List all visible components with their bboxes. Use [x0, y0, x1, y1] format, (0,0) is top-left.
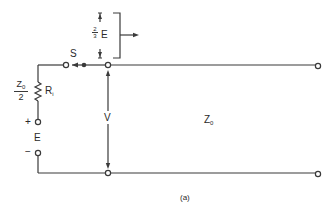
source-minus-terminal: [35, 150, 40, 155]
switch-pivot-dot: [82, 63, 87, 68]
switch-open-terminal: [63, 62, 68, 67]
line-impedance-label: Z0: [204, 115, 213, 126]
plus-sign: +: [25, 117, 31, 127]
minus-sign: −: [25, 147, 31, 157]
transmission-line-diagram: S Z0 2 Ri + E − V Z0 2 3 E (a): [0, 0, 334, 210]
pulse-amplitude-symbol: E: [101, 30, 108, 40]
line-end-bottom-terminal: [315, 171, 320, 176]
switch-arrow-icon: [72, 63, 78, 68]
pulse-amplitude-fraction: 2 3: [92, 26, 98, 39]
circuit-schematic: [0, 0, 334, 210]
resistor-icon: [35, 82, 41, 101]
junction-top-terminal: [105, 62, 110, 67]
junction-bottom-terminal: [105, 170, 110, 175]
source-label: E: [34, 133, 41, 143]
source-impedance-fraction: Z0 2: [14, 80, 28, 102]
source-impedance-denominator: 2: [18, 92, 23, 102]
switch-label: S: [70, 49, 77, 59]
pulse-fraction-numerator: 2: [93, 26, 96, 32]
source-impedance-numerator: Z0: [17, 79, 26, 89]
line-end-top-terminal: [315, 63, 320, 68]
source-plus-terminal: [35, 119, 40, 124]
pulse-height-arrowhead-up: [98, 14, 102, 19]
voltage-arrowhead-down: [106, 163, 110, 169]
voltage-label: V: [104, 113, 111, 123]
pulse-bracket: [113, 13, 120, 58]
figure-caption: (a): [180, 194, 190, 202]
pulse-direction-arrowhead: [133, 33, 139, 37]
pulse-fraction-denominator: 3: [93, 33, 96, 39]
pulse-height-arrowhead-down: [98, 52, 102, 57]
resistor-label: Ri: [45, 86, 54, 97]
voltage-arrowhead-up: [106, 70, 110, 76]
